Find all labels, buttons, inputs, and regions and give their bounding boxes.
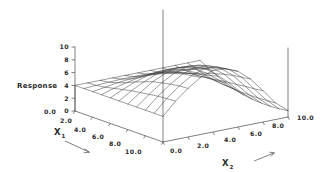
x1-tick-10 (161, 142, 163, 145)
x1-tick-6 (126, 130, 128, 133)
response-axis-title: Response (17, 82, 57, 90)
x1-tick-label-8: 8.0 (109, 140, 121, 147)
x1-axis-subscript: 1 (62, 133, 66, 139)
x1-tick-label-6: 6.0 (92, 133, 104, 140)
response-surface-mesh (75, 60, 288, 116)
x2-axis-ticks: 0.0 2.0 4.0 6.0 8.0 10.0 (163, 114, 314, 154)
x2-tick-label-0: 0.0 (170, 147, 182, 154)
x2-tick-6 (238, 127, 239, 130)
x2-tick-4 (213, 132, 214, 135)
mesh-line-x1-10 (163, 69, 288, 117)
x2-tick-label-8: 8.0 (272, 122, 284, 129)
response-tick-label-4: 4 (64, 82, 69, 89)
x2-tick-2 (188, 137, 189, 140)
x1-axis-ticks: 0.0 2.0 4.0 6.0 8.0 10.0 (44, 108, 163, 155)
response-tick-label-10: 10 (60, 43, 70, 50)
response-tick-label-0: 0 (64, 107, 69, 114)
plot-base-edges (75, 111, 288, 142)
x2-axis-name-group: X 2 (222, 152, 275, 170)
mesh-line-x1-1 (84, 69, 209, 89)
surface-plot-canvas: 10 8 6 4 2 0 Response (0, 0, 326, 172)
x1-tick-label-2: 2.0 (60, 117, 72, 124)
x1-tick-label-4: 4.0 (74, 126, 86, 133)
surface-plot-figure: 10 8 6 4 2 0 Response (0, 0, 326, 172)
response-tick-label-8: 8 (64, 56, 69, 63)
mesh-line-x2-0 (75, 85, 163, 116)
x1-axis-label: X (54, 127, 61, 137)
x2-tick-label-10: 10.0 (297, 114, 314, 121)
x1-tick-4 (108, 123, 110, 126)
mesh-line-x2-8 (175, 65, 263, 90)
x1-tick-label-10: 10.0 (125, 148, 142, 155)
x2-axis-subscript: 2 (230, 164, 234, 170)
x1-direction-arrow-icon (65, 141, 90, 153)
x1-tick-8 (144, 136, 146, 139)
x2-tick-label-4: 4.0 (224, 136, 236, 143)
x2-tick-label-2: 2.0 (197, 142, 209, 149)
response-axis: 10 8 6 4 2 0 Response (17, 43, 75, 114)
x2-tick-10 (288, 117, 289, 120)
x2-tick-label-6: 6.0 (250, 130, 262, 137)
x1-axis-line (75, 111, 163, 142)
x1-tick-2 (91, 117, 93, 120)
response-tick-label-6: 6 (64, 69, 69, 76)
x2-tick-0 (163, 142, 164, 145)
x2-axis-label: X (222, 158, 229, 168)
x2-direction-arrow-icon (254, 152, 275, 161)
x1-tick-0 (73, 111, 75, 114)
response-tick-label-2: 2 (64, 95, 69, 102)
x2-tick-8 (263, 122, 264, 125)
x1-tick-label-0: 0.0 (44, 108, 56, 115)
mesh-line-x1-6 (128, 66, 253, 104)
